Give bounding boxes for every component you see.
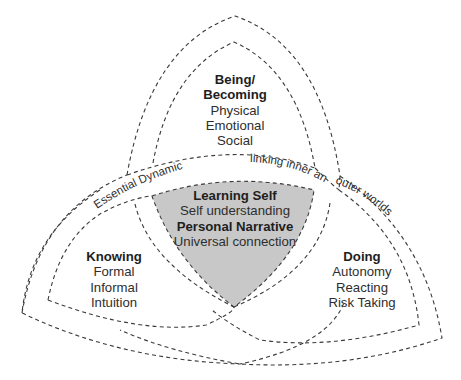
being-item: Emotional — [175, 118, 295, 133]
being-title-1: Being/ — [175, 72, 295, 87]
center-line-bold: Personal Narrative — [165, 219, 305, 234]
doing-item: Risk Taking — [317, 295, 407, 310]
band-text-outer-worlds: outer worlds — [334, 173, 396, 218]
doing-item: Autonomy — [317, 264, 407, 279]
being-item: Physical — [175, 103, 295, 118]
center-line: Self understanding — [165, 203, 305, 218]
knowing-item: Formal — [74, 264, 154, 279]
being-title-2: Becoming — [175, 87, 295, 102]
learning-self-diagram: Essential Dynamic linking inner and oute… — [0, 0, 461, 380]
doing-item: Reacting — [317, 280, 407, 295]
center-title: Learning Self — [165, 188, 305, 203]
knowing-item: Intuition — [74, 295, 154, 310]
center-label: Learning Self Self understanding Persona… — [165, 188, 305, 249]
center-line: Universal connection — [165, 234, 305, 249]
knowing-title: Knowing — [74, 249, 154, 264]
doing-title: Doing — [317, 249, 407, 264]
being-item: Social — [175, 133, 295, 148]
being-label: Being/ Becoming Physical Emotional Socia… — [175, 72, 295, 148]
doing-label: Doing Autonomy Reacting Risk Taking — [317, 249, 407, 310]
knowing-label: Knowing Formal Informal Intuition — [74, 249, 154, 310]
knowing-item: Informal — [74, 280, 154, 295]
